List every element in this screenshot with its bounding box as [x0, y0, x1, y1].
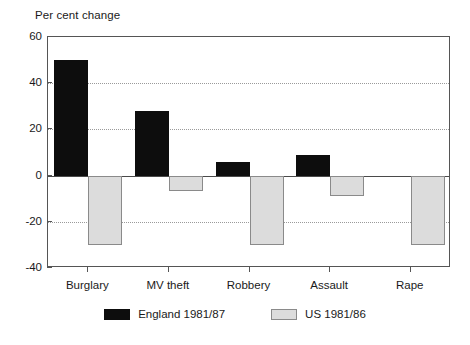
legend-label: England 1981/87	[138, 308, 225, 320]
bar	[88, 176, 122, 245]
bar	[330, 176, 364, 197]
x-axis-category-label: Robbery	[227, 279, 270, 291]
bar	[411, 176, 445, 245]
chart-legend: England 1981/87US 1981/86	[0, 308, 470, 320]
x-axis-category-label: Burglary	[66, 279, 109, 291]
legend-item: US 1981/86	[271, 308, 366, 320]
y-axis-tick-mark	[47, 128, 52, 129]
plot-area	[47, 36, 450, 267]
y-axis-tick-mark	[47, 221, 52, 222]
y-axis-tick-mark	[47, 82, 52, 83]
y-axis-tick-label: 60	[2, 30, 42, 42]
y-axis-tick-label: -40	[2, 261, 42, 273]
gridline	[48, 129, 449, 130]
y-axis-title: Per cent change	[35, 9, 120, 21]
x-axis-category-label: Rape	[396, 279, 424, 291]
bar	[216, 162, 250, 176]
bar-chart: Per cent change 6040200-20-40 BurglaryMV…	[0, 0, 470, 345]
x-axis-tick-mark	[410, 267, 411, 272]
legend-swatch-us	[271, 309, 297, 320]
y-axis-tick-label: -20	[2, 215, 42, 227]
gridline	[48, 83, 449, 84]
x-axis-tick-mark	[168, 267, 169, 272]
bar	[135, 111, 169, 176]
legend-item: England 1981/87	[104, 308, 225, 320]
x-axis-category-label: MV theft	[146, 279, 189, 291]
y-axis-tick-mark	[47, 175, 52, 176]
y-axis-tick-mark	[47, 267, 52, 268]
x-axis-tick-mark	[329, 267, 330, 272]
x-axis-tick-mark	[87, 267, 88, 272]
y-axis-tick-label: 20	[2, 122, 42, 134]
legend-swatch-england	[104, 309, 130, 320]
x-axis-category-label: Assault	[310, 279, 348, 291]
bar	[169, 176, 203, 191]
x-axis-tick-mark	[249, 267, 250, 272]
bar	[54, 60, 88, 176]
y-axis-tick-label: 40	[2, 76, 42, 88]
legend-label: US 1981/86	[305, 308, 366, 320]
bar	[250, 176, 284, 245]
bar	[296, 155, 330, 176]
y-axis-tick-mark	[47, 36, 52, 37]
y-axis-tick-label: 0	[2, 169, 42, 181]
